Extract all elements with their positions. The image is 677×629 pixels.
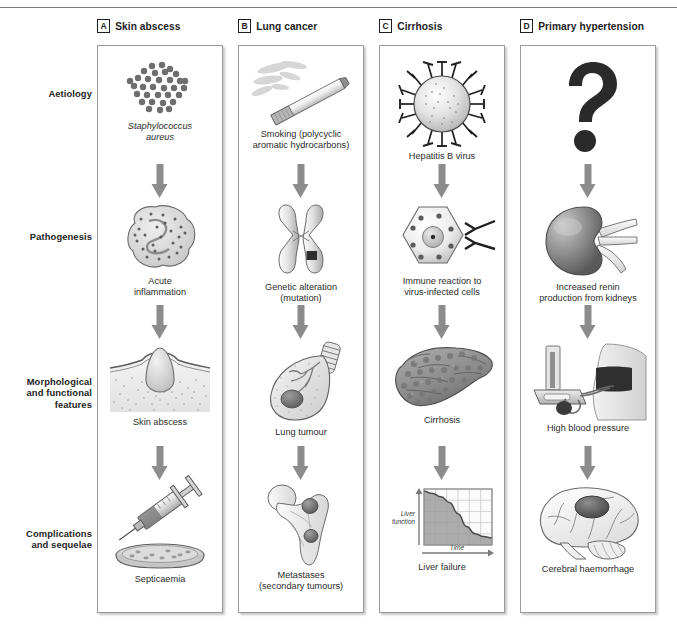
caption-cirrhosis: Cirrhosis (424, 415, 460, 426)
lung-with-tumour-icon (251, 342, 351, 424)
column-letter-c: C (379, 19, 392, 33)
caption-genetic-alteration: Genetic alteration (mutation) (265, 282, 337, 303)
arrow-down-icon (434, 164, 451, 198)
column-letter-b: B (238, 19, 251, 33)
stage-aetiology-a: Staphylococcus aureus (98, 60, 222, 142)
caption-staphylococcus-aureus: Staphylococcus aureus (128, 121, 192, 142)
caption-septicaemia: Septicaemia (135, 574, 186, 585)
row-label-aetiology: Aetiology (0, 88, 92, 99)
stage-pathogenesis-c: Immune reaction to virus-infected cells (380, 201, 504, 297)
stage-morphological-b: Lung tumour (239, 342, 363, 438)
arrow-down-icon (152, 446, 169, 480)
stage-aetiology-d (521, 60, 655, 155)
stage-aetiology-c: Hepatitis B virus (380, 60, 504, 162)
column-title-a: Skin abscess (115, 21, 180, 32)
arrow-down-icon (293, 164, 310, 198)
arrow-down-icon (580, 446, 597, 480)
femur-with-metastases-icon (260, 483, 342, 567)
arrow-down-icon (434, 305, 451, 339)
caption-lung-tumour: Lung tumour (275, 427, 327, 438)
stage-complications-b: Metastases (secondary tumours) (239, 483, 363, 591)
caption-smoking: Smoking (polycyclic aromatic hydrocarbon… (253, 129, 350, 150)
infected-cell-with-lymphocytes-icon (387, 201, 497, 273)
panel-cirrhosis: Hepatitis B virus (379, 45, 505, 613)
stage-complications-d: Cerebral haemorrhage (521, 483, 655, 575)
brain-with-haemorrhage-icon (530, 483, 646, 561)
top-divider-rule (0, 7, 677, 8)
stage-aetiology-b: Smoking (polycyclic aromatic hydrocarbon… (239, 60, 363, 150)
hepatitis-b-virion-icon (396, 60, 488, 148)
column-header-b: B Lung cancer (238, 19, 317, 33)
stage-morphological-d: High blood pressure (521, 342, 655, 434)
staphylococci-cluster-icon (122, 60, 198, 118)
stage-pathogenesis-b: Genetic alteration (mutation) (239, 201, 363, 303)
panel-skin-abscess: Staphylococcus aureus (97, 45, 223, 613)
svg-text:function: function (392, 518, 415, 525)
stage-pathogenesis-a: Acute inflammation (98, 201, 222, 297)
arrow-down-icon (434, 446, 451, 480)
arrow-down-icon (152, 305, 169, 339)
panel-primary-hypertension: Increased renin production from kidneys (520, 45, 656, 613)
arrow-down-icon (293, 305, 310, 339)
caption-metastases: Metastases (secondary tumours) (259, 570, 343, 591)
arrow-down-icon (293, 446, 310, 480)
caption-skin-abscess: Skin abscess (133, 417, 187, 428)
cirrhotic-liver-icon (388, 342, 496, 412)
row-label-morphological: Morphological and functional features (0, 376, 92, 410)
column-letter-a: A (97, 19, 110, 33)
stage-complications-a: Septicaemia (98, 483, 222, 585)
svg-text:Liver: Liver (401, 510, 416, 517)
stage-pathogenesis-d: Increased renin production from kidneys (521, 201, 655, 303)
question-mark-icon (555, 60, 621, 152)
stage-morphological-a: Skin abscess (98, 342, 222, 428)
caption-high-blood-pressure: High blood pressure (547, 423, 629, 434)
column-title-b: Lung cancer (256, 21, 317, 32)
arrow-down-icon (152, 164, 169, 198)
syringe-and-petri-dish-icon (108, 483, 212, 571)
caption-liver-failure: Liver failure (418, 562, 466, 573)
kidney-icon (536, 201, 640, 279)
caption-increased-renin: Increased renin production from kidneys (539, 282, 637, 303)
column-title-d: Primary hypertension (538, 21, 644, 32)
arrow-down-icon (580, 164, 597, 198)
burning-cigarette-icon (246, 60, 356, 126)
skin-abscess-section-icon (108, 342, 212, 414)
stage-complications-c: Liver function Time Liver failure (380, 483, 504, 573)
row-label-pathogenesis: Pathogenesis (0, 231, 92, 242)
liver-function-chart: Liver function Time (388, 483, 496, 559)
arrow-down-icon (580, 305, 597, 339)
row-label-complications: Complications and sequelae (0, 528, 92, 551)
caption-cerebral-haemorrhage: Cerebral haemorrhage (542, 564, 634, 575)
column-title-c: Cirrhosis (397, 21, 442, 32)
caption-hepatitis-b-virus: Hepatitis B virus (409, 151, 475, 162)
column-header-a: A Skin abscess (97, 19, 180, 33)
caption-acute-inflammation: Acute inflammation (134, 276, 186, 297)
inflamed-tissue-icon (117, 201, 203, 273)
column-header-d: D Primary hypertension (520, 19, 644, 33)
sphygmomanometer-icon (530, 342, 646, 420)
column-header-c: C Cirrhosis (379, 19, 442, 33)
panel-lung-cancer: Smoking (polycyclic aromatic hydrocarbon… (238, 45, 364, 613)
column-letter-d: D (520, 19, 533, 33)
caption-immune-reaction: Immune reaction to virus-infected cells (403, 276, 482, 297)
chromosome-icon (275, 201, 327, 279)
stage-morphological-c: Cirrhosis (380, 342, 504, 426)
